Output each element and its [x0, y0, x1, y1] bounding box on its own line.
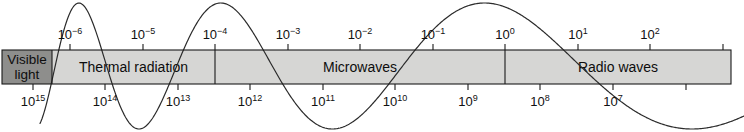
wavelength-axis-label-2: 10−4	[203, 26, 228, 42]
wavelength-tick-group	[70, 44, 723, 50]
band-label-thermal-radiation: Thermal radiation	[79, 59, 188, 75]
wavelength-axis-label-1: 10−5	[131, 26, 156, 42]
frequency-tick-labels: 101510141013101210111010109108107	[21, 93, 623, 109]
frequency-axis-label-8: 107	[603, 93, 622, 109]
frequency-axis-label-0: 1015	[21, 93, 45, 109]
frequency-tick-group	[33, 84, 686, 90]
wavelength-axis-label-4: 10−2	[348, 26, 373, 42]
frequency-axis-label-1: 1014	[93, 93, 117, 109]
band-label-radio-waves: Radio waves	[578, 59, 658, 75]
wavelength-axis-label-7: 101	[568, 26, 587, 42]
band-label-microwaves: Microwaves	[323, 59, 397, 75]
wavelength-axis-label-5: 10−1	[421, 26, 446, 42]
frequency-axis-label-7: 108	[530, 93, 549, 109]
wavelength-axis-label-8: 102	[640, 26, 659, 42]
wavelength-axis-label-6: 100	[495, 26, 514, 42]
wavelength-axis-label-0: 10−6	[58, 26, 83, 42]
wavelength-axis-label-3: 10−3	[276, 26, 301, 42]
band-label-visible-light: Visible	[7, 52, 47, 67]
electromagnetic-spectrum-diagram: VisiblelightThermal radiationMicrowavesR…	[0, 0, 744, 132]
band-label-visible-light-line2: light	[15, 67, 40, 82]
frequency-axis-label-3: 1012	[238, 93, 262, 109]
frequency-axis-label-2: 1013	[166, 93, 190, 109]
wavelength-tick-labels: 10−610−510−410−310−210−1100101102	[58, 26, 660, 42]
frequency-axis-label-6: 109	[458, 93, 477, 109]
frequency-axis-label-4: 1011	[311, 93, 335, 109]
frequency-axis-label-5: 1010	[383, 93, 407, 109]
